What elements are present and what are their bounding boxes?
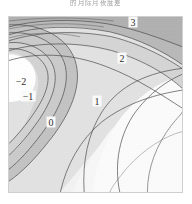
figure-title: 的月际月夜度差	[0, 0, 192, 7]
contour-label-1: 1	[93, 96, 102, 107]
contour-label-0: 0	[47, 117, 56, 128]
contour-label-3: 3	[129, 17, 138, 28]
figure-container: 的月际月夜度差	[0, 0, 192, 204]
contour-label-neg2: −2	[14, 76, 29, 87]
contour-label-neg1: −1	[21, 91, 36, 102]
contour-label-2: 2	[118, 53, 127, 64]
